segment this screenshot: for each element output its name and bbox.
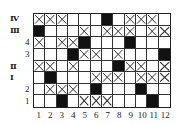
empty-cell[interactable]	[159, 37, 170, 49]
empty-cell[interactable]	[136, 37, 147, 49]
empty-cell[interactable]	[45, 26, 56, 38]
empty-cell[interactable]	[45, 37, 56, 49]
empty-cell[interactable]	[68, 26, 79, 38]
crossed-cell[interactable]	[45, 84, 56, 96]
crossed-cell[interactable]	[159, 72, 170, 84]
empty-cell[interactable]	[45, 49, 56, 61]
crossed-cell[interactable]	[125, 61, 136, 73]
empty-cell[interactable]	[136, 26, 147, 38]
empty-cell[interactable]	[79, 72, 90, 84]
empty-cell[interactable]	[102, 61, 113, 73]
empty-cell[interactable]	[57, 72, 68, 84]
crossed-cell[interactable]	[102, 95, 113, 107]
empty-cell[interactable]	[136, 49, 147, 61]
empty-cell[interactable]	[102, 49, 113, 61]
filled-cell[interactable]	[125, 37, 136, 49]
filled-cell[interactable]	[68, 49, 79, 61]
empty-cell[interactable]	[91, 37, 102, 49]
crossed-cell[interactable]	[159, 61, 170, 73]
crossed-cell[interactable]	[45, 14, 56, 26]
crossed-cell[interactable]	[136, 61, 147, 73]
empty-cell[interactable]	[45, 95, 56, 107]
empty-cell[interactable]	[159, 14, 170, 26]
filled-cell[interactable]	[57, 95, 68, 107]
crossed-cell[interactable]	[68, 61, 79, 73]
empty-cell[interactable]	[34, 95, 45, 107]
empty-cell[interactable]	[147, 49, 158, 61]
empty-cell[interactable]	[136, 95, 147, 107]
filled-cell[interactable]	[159, 49, 170, 61]
crossed-cell[interactable]	[102, 72, 113, 84]
crossed-cell[interactable]	[147, 72, 158, 84]
empty-cell[interactable]	[68, 14, 79, 26]
crossed-cell[interactable]	[91, 49, 102, 61]
empty-cell[interactable]	[125, 72, 136, 84]
empty-cell[interactable]	[159, 95, 170, 107]
column-label: 1	[33, 109, 45, 121]
crossed-cell[interactable]	[125, 14, 136, 26]
crossed-cell[interactable]	[113, 72, 124, 84]
empty-cell[interactable]	[147, 84, 158, 96]
filled-cell[interactable]	[91, 84, 102, 96]
empty-cell[interactable]	[102, 37, 113, 49]
empty-cell[interactable]	[125, 84, 136, 96]
crossed-cell[interactable]	[57, 14, 68, 26]
empty-cell[interactable]	[159, 84, 170, 96]
empty-cell[interactable]	[147, 37, 158, 49]
empty-cell[interactable]	[57, 49, 68, 61]
filled-cell[interactable]	[136, 84, 147, 96]
crossed-cell[interactable]	[159, 26, 170, 38]
cross-icon	[113, 72, 123, 83]
crossed-cell[interactable]	[136, 72, 147, 84]
empty-cell[interactable]	[68, 95, 79, 107]
crossed-cell[interactable]	[79, 26, 90, 38]
crossed-cell[interactable]	[136, 14, 147, 26]
crossed-cell[interactable]	[113, 49, 124, 61]
crossed-cell[interactable]	[147, 14, 158, 26]
empty-cell[interactable]	[91, 61, 102, 73]
empty-cell[interactable]	[79, 61, 90, 73]
empty-cell[interactable]	[57, 61, 68, 73]
crossed-cell[interactable]	[45, 61, 56, 73]
crossed-cell[interactable]	[34, 14, 45, 26]
crossed-cell[interactable]	[79, 49, 90, 61]
crossed-cell[interactable]	[113, 26, 124, 38]
empty-cell[interactable]	[125, 49, 136, 61]
crossed-cell[interactable]	[68, 37, 79, 49]
crossed-cell[interactable]	[102, 26, 113, 38]
empty-cell[interactable]	[57, 26, 68, 38]
crossed-cell[interactable]	[57, 84, 68, 96]
empty-cell[interactable]	[34, 84, 45, 96]
empty-cell[interactable]	[147, 61, 158, 73]
crossed-cell[interactable]	[57, 37, 68, 49]
crossed-cell[interactable]	[79, 95, 90, 107]
empty-cell[interactable]	[113, 14, 124, 26]
crossed-cell[interactable]	[91, 72, 102, 84]
empty-cell[interactable]	[79, 84, 90, 96]
empty-cell[interactable]	[113, 37, 124, 49]
row-label: 4	[0, 37, 31, 49]
empty-cell[interactable]	[113, 84, 124, 96]
filled-cell[interactable]	[102, 14, 113, 26]
empty-cell[interactable]	[91, 14, 102, 26]
crossed-cell[interactable]	[125, 26, 136, 38]
empty-cell[interactable]	[113, 95, 124, 107]
filled-cell[interactable]	[113, 61, 124, 73]
cross-icon	[79, 26, 89, 37]
crossed-cell[interactable]	[34, 37, 45, 49]
filled-cell[interactable]	[147, 95, 158, 107]
filled-cell[interactable]	[34, 26, 45, 38]
empty-cell[interactable]	[102, 84, 113, 96]
empty-cell[interactable]	[68, 72, 79, 84]
crossed-cell[interactable]	[34, 61, 45, 73]
empty-cell[interactable]	[34, 72, 45, 84]
empty-cell[interactable]	[91, 26, 102, 38]
filled-cell[interactable]	[79, 37, 90, 49]
crossed-cell[interactable]	[68, 84, 79, 96]
crossed-cell[interactable]	[147, 26, 158, 38]
empty-cell[interactable]	[125, 95, 136, 107]
empty-cell[interactable]	[34, 49, 45, 61]
empty-cell[interactable]	[79, 14, 90, 26]
filled-cell[interactable]	[45, 72, 56, 84]
crossed-cell[interactable]	[91, 95, 102, 107]
